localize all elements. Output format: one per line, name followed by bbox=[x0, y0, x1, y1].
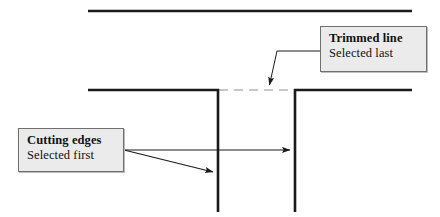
trimmed-line-leader-arrow bbox=[270, 51, 321, 85]
trimmed-line-callout-title: Trimmed line bbox=[329, 31, 419, 46]
trimmed-line-callout-box: Trimmed line Selected last bbox=[320, 26, 427, 72]
cutting-edges-callout-box: Cutting edges Selected first bbox=[18, 128, 124, 172]
cutting-edges-callout-title: Cutting edges bbox=[27, 133, 116, 148]
cutting-edges-callout-subtitle: Selected first bbox=[27, 148, 116, 163]
cutting-edges-arrow-to-left-vertical bbox=[124, 150, 213, 172]
trimmed-line-callout-subtitle: Selected last bbox=[329, 46, 419, 61]
